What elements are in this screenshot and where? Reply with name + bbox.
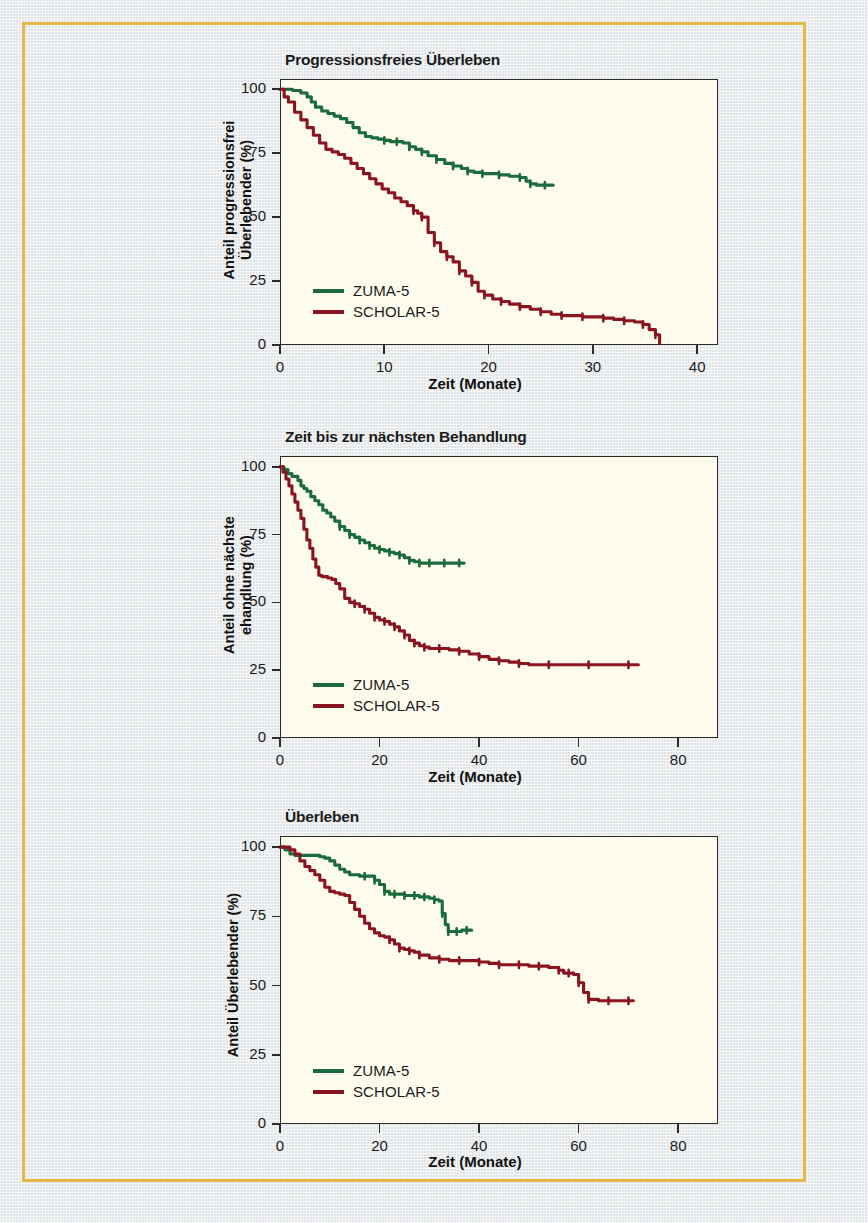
chart-1-x-tick-20: 20 bbox=[459, 358, 519, 375]
chart-1-x-tick-0: 0 bbox=[250, 358, 310, 375]
chart-3-x-tick-0: 0 bbox=[250, 1137, 310, 1154]
chart-3-y-tickmark bbox=[272, 916, 280, 918]
chart-2-curves bbox=[25, 410, 809, 800]
figure-page: Progressionsfreies Überleben Anteil prog… bbox=[0, 0, 868, 1223]
legend-label-scholar: SCHOLAR-5 bbox=[353, 697, 440, 714]
chart-1-y-tickmark bbox=[272, 280, 280, 282]
chart-1-x-tick-10: 10 bbox=[354, 358, 414, 375]
legend-swatch-zuma bbox=[313, 683, 344, 687]
legend-label-scholar: SCHOLAR-5 bbox=[353, 1083, 440, 1100]
chart-2-x-tickmark bbox=[677, 738, 679, 747]
chart-2-y-tick-0: 0 bbox=[222, 728, 266, 745]
chart-3-y-tickmark bbox=[272, 846, 280, 848]
chart-1-y-tickmark bbox=[272, 88, 280, 90]
chart-1-x-tickmark bbox=[696, 345, 698, 354]
chart-3-y-tick-100: 100 bbox=[222, 837, 266, 854]
legend-swatch-scholar bbox=[313, 310, 344, 314]
legend-label-zuma: ZUMA-5 bbox=[353, 676, 409, 693]
curve-scholar-5 bbox=[280, 847, 633, 1001]
chart-panel-progression-free-survival: Progressionsfreies Überleben Anteil prog… bbox=[25, 25, 809, 405]
chart-1-x-tickmark bbox=[279, 345, 281, 354]
legend-label-zuma: ZUMA-5 bbox=[353, 282, 409, 299]
chart-1-curves bbox=[25, 25, 809, 405]
chart-2-x-tickmark bbox=[379, 738, 381, 747]
chart-1-legend: ZUMA-5 SCHOLAR-5 bbox=[313, 280, 440, 322]
chart-3-y-tick-25: 25 bbox=[222, 1045, 266, 1062]
chart-2-x-tick-40: 40 bbox=[449, 751, 509, 768]
chart-3-x-tick-80: 80 bbox=[648, 1137, 708, 1154]
chart-3-y-tick-75: 75 bbox=[222, 906, 266, 923]
chart-1-x-tick-30: 30 bbox=[563, 358, 623, 375]
chart-2-y-tickmark bbox=[272, 466, 280, 468]
chart-3-y-tick-50: 50 bbox=[222, 976, 266, 993]
chart-2-x-tickmark bbox=[578, 738, 580, 747]
legend-label-zuma: ZUMA-5 bbox=[353, 1062, 409, 1079]
chart-1-y-tick-100: 100 bbox=[222, 79, 266, 96]
chart-1-y-tickmark bbox=[272, 152, 280, 154]
chart-3-curves bbox=[25, 790, 809, 1185]
chart-2-y-tickmark bbox=[272, 669, 280, 671]
chart-3-y-tickmark bbox=[272, 1054, 280, 1056]
chart-3-x-tickmark bbox=[478, 1124, 480, 1133]
legend-entry-zuma: ZUMA-5 bbox=[313, 674, 440, 695]
legend-swatch-zuma bbox=[313, 1069, 344, 1073]
legend-swatch-scholar bbox=[313, 1090, 344, 1094]
chart-panel-overall-survival: Überleben Anteil Überlebender (%) Zeit (… bbox=[25, 790, 809, 1185]
chart-3-x-tickmark bbox=[578, 1124, 580, 1133]
legend-entry-scholar: SCHOLAR-5 bbox=[313, 301, 440, 322]
chart-3-legend: ZUMA-5 SCHOLAR-5 bbox=[313, 1060, 440, 1102]
chart-2-x-tickmark bbox=[478, 738, 480, 747]
chart-1-x-tickmark bbox=[383, 345, 385, 354]
chart-2-y-tick-100: 100 bbox=[222, 457, 266, 474]
chart-2-legend: ZUMA-5 SCHOLAR-5 bbox=[313, 674, 440, 716]
chart-panel-time-to-next-treatment: Zeit bis zur nächsten Behandlung Anteil … bbox=[25, 410, 809, 800]
chart-1-y-tick-50: 50 bbox=[222, 207, 266, 224]
legend-label-scholar: SCHOLAR-5 bbox=[353, 303, 440, 320]
legend-swatch-scholar bbox=[313, 704, 344, 708]
legend-entry-scholar: SCHOLAR-5 bbox=[313, 1081, 440, 1102]
chart-2-x-tick-0: 0 bbox=[250, 751, 310, 768]
chart-3-x-tick-20: 20 bbox=[350, 1137, 410, 1154]
chart-1-x-tickmark bbox=[592, 345, 594, 354]
chart-3-x-tickmark bbox=[379, 1124, 381, 1133]
chart-2-x-tickmark bbox=[279, 738, 281, 747]
chart-2-x-tick-60: 60 bbox=[549, 751, 609, 768]
legend-swatch-zuma bbox=[313, 289, 344, 293]
chart-2-y-tick-75: 75 bbox=[222, 525, 266, 542]
chart-1-x-tick-40: 40 bbox=[667, 358, 727, 375]
chart-2-y-tick-50: 50 bbox=[222, 592, 266, 609]
chart-2-x-tick-20: 20 bbox=[350, 751, 410, 768]
chart-1-x-tickmark bbox=[488, 345, 490, 354]
chart-3-y-tickmark bbox=[272, 985, 280, 987]
chart-3-x-tickmark bbox=[279, 1124, 281, 1133]
legend-entry-zuma: ZUMA-5 bbox=[313, 280, 440, 301]
chart-3-x-tick-40: 40 bbox=[449, 1137, 509, 1154]
legend-entry-zuma: ZUMA-5 bbox=[313, 1060, 440, 1081]
chart-2-y-tickmark bbox=[272, 602, 280, 604]
chart-3-y-tick-0: 0 bbox=[222, 1114, 266, 1131]
curve-zuma-5 bbox=[280, 847, 472, 931]
chart-1-y-tickmark bbox=[272, 216, 280, 218]
legend-entry-scholar: SCHOLAR-5 bbox=[313, 695, 440, 716]
chart-3-x-tickmark bbox=[677, 1124, 679, 1133]
chart-2-y-tick-25: 25 bbox=[222, 660, 266, 677]
chart-3-x-tick-60: 60 bbox=[549, 1137, 609, 1154]
chart-2-y-tickmark bbox=[272, 534, 280, 536]
chart-1-y-tick-75: 75 bbox=[222, 143, 266, 160]
chart-2-x-tick-80: 80 bbox=[648, 751, 708, 768]
figure-frame: Progressionsfreies Überleben Anteil prog… bbox=[22, 22, 806, 1182]
curve-zuma-5 bbox=[280, 467, 464, 563]
chart-1-y-tick-25: 25 bbox=[222, 271, 266, 288]
chart-1-y-tick-0: 0 bbox=[222, 335, 266, 352]
